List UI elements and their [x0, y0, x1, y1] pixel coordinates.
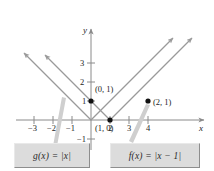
- y-tick-label-2: 2: [80, 78, 84, 87]
- absolute-value-graph-figure: −3 −2 −1 2 3 4 1 2 3 −1 x y (0, 1) (2, 1…: [0, 0, 214, 171]
- point-label-1-0: (1, 0): [95, 124, 113, 133]
- g-callout-pointer: [53, 97, 66, 146]
- point-label-2-1: (2, 1): [153, 98, 171, 107]
- x-axis-label: x: [199, 124, 203, 133]
- x-tick-label-3: 3: [127, 124, 131, 133]
- y-axis-label: y: [83, 26, 87, 35]
- callout-pointers: [53, 97, 150, 146]
- x-tick-label--2: −2: [47, 124, 56, 133]
- point-label-0-1: (0, 1): [95, 85, 113, 94]
- curve-f: [45, 38, 192, 120]
- callout-f-formula: f(x) = |x − 1|: [110, 143, 200, 168]
- dot-2-1: [145, 98, 150, 103]
- callout-g-text: g(x) = |x|: [33, 151, 71, 161]
- x-tick-label--3: −3: [28, 124, 37, 133]
- x-tick-label-4: 4: [146, 124, 150, 133]
- x-tick-label--1: −1: [66, 124, 75, 133]
- y-tick-label-3: 3: [80, 59, 84, 68]
- callout-g-formula: g(x) = |x|: [14, 143, 90, 168]
- dot-0-1: [88, 98, 93, 103]
- dot-1-0: [107, 117, 112, 122]
- callout-f-text: f(x) = |x − 1|: [129, 151, 182, 161]
- y-tick-label-1: 1: [82, 97, 86, 106]
